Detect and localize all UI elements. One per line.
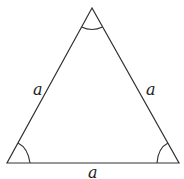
angle-arc-top [82, 27, 103, 30]
side-label-right: a [146, 80, 156, 99]
side-label-left: a [33, 80, 43, 99]
side-label-bottom: a [88, 163, 98, 179]
triangle-diagram: a a a [0, 0, 184, 179]
angle-arc-bottom-left [18, 143, 30, 163]
angle-arc-bottom-right [157, 143, 168, 163]
